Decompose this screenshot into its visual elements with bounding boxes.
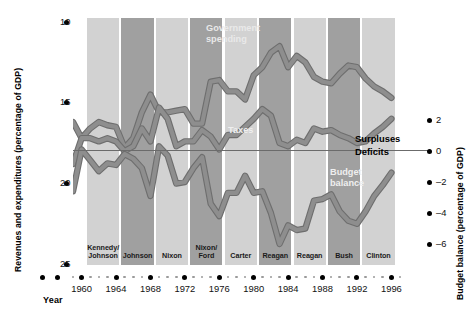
x-axis-minor-tick-dot <box>175 276 178 279</box>
x-axis-minor-tick-dot <box>209 276 212 279</box>
y-axis-right-tick-dot <box>427 180 432 185</box>
x-axis-major-tick-dot <box>320 275 325 280</box>
x-axis-minor-tick-dot <box>373 276 376 279</box>
x-axis-minor-tick-dot <box>278 276 281 279</box>
x-axis-minor-tick-dot <box>123 276 126 279</box>
x-axis-tick-label: 1972 <box>174 283 195 294</box>
x-axis-tick-label: 1988 <box>312 283 333 294</box>
x-axis-minor-tick-dot <box>201 276 204 279</box>
y-axis-right-tick-dot <box>427 242 432 247</box>
x-axis-minor-tick-dot <box>166 276 169 279</box>
y-axis-right-tick-label: 0 <box>436 145 441 156</box>
y-axis-right-tick-label: –6 <box>436 238 446 249</box>
x-axis-tick-label: 1996 <box>381 283 402 294</box>
x-axis-minor-tick-dot <box>132 276 135 279</box>
zero-reference-line <box>73 150 400 151</box>
x-axis-tick-label: 1960 <box>71 283 92 294</box>
x-axis-minor-tick-dot <box>399 276 402 279</box>
zero-leader-line <box>400 150 429 151</box>
x-axis-tick-dot <box>40 275 45 280</box>
x-axis-minor-tick-dot <box>98 276 101 279</box>
x-axis-major-tick-dot <box>354 275 359 280</box>
x-axis-minor-tick-dot <box>295 276 298 279</box>
x-axis-title: Year <box>43 295 63 305</box>
x-axis-tick-dot <box>55 275 60 280</box>
x-axis-tick-label: 1984 <box>278 283 299 294</box>
x-axis-minor-tick-dot <box>313 276 316 279</box>
x-axis-major-tick-dot <box>148 275 153 280</box>
annotation-gov-line2: spending <box>206 34 260 45</box>
x-axis-minor-tick-dot <box>244 276 247 279</box>
annotation-budget-balance: Budget balance <box>330 167 364 188</box>
x-axis-minor-tick-dot <box>304 276 307 279</box>
x-axis-major-tick-dot <box>286 275 291 280</box>
plot-area: Kennedy/JohnsonJohnsonNixonNixon/FordCar… <box>73 18 400 265</box>
x-axis-major-tick-dot <box>389 275 394 280</box>
x-axis-minor-tick-dot <box>270 276 273 279</box>
x-axis-major-tick-dot <box>251 275 256 280</box>
x-axis-minor-tick-dot <box>106 276 109 279</box>
x-axis-minor-tick-dot <box>347 276 350 279</box>
x-axis-minor-tick-dot <box>338 276 341 279</box>
y-axis-right-tick-dot <box>427 211 432 216</box>
y-axis-right-tick-label: –2 <box>436 176 446 187</box>
x-axis-minor-tick-dot <box>192 276 195 279</box>
x-axis-minor-tick-dot <box>158 276 161 279</box>
x-axis-minor-tick-dot <box>141 276 144 279</box>
x-axis-major-tick-dot <box>182 275 187 280</box>
annotation-taxes: Taxes <box>228 125 253 136</box>
x-axis-tick-label: 1964 <box>106 283 127 294</box>
x-axis-major-tick-dot <box>114 275 119 280</box>
y-axis-right-tick-dot <box>427 118 432 123</box>
x-axis-tick-label: 1976 <box>209 283 230 294</box>
y-axis-right-tick-dot <box>427 149 432 154</box>
y-axis-right-tick-label: –4 <box>436 207 446 218</box>
annotation-budget-line1: Budget <box>330 167 364 178</box>
annotation-budget-line2: balance <box>330 178 364 189</box>
chart-figure: Revenues and expenditures (percentage of… <box>0 0 470 316</box>
x-axis-minor-tick-dot <box>381 276 384 279</box>
annotation-gov-line1: Government <box>206 23 260 34</box>
x-axis-major-tick-dot <box>79 275 84 280</box>
x-axis-minor-tick-dot <box>330 276 333 279</box>
y-axis-right-title: Budget balance (percentage of GDP) <box>455 147 465 300</box>
x-axis-minor-tick-dot <box>364 276 367 279</box>
annotation-surpluses: Surpluses <box>355 134 400 145</box>
annotation-government-spending: Government spending <box>206 23 260 44</box>
x-axis-tick-label: 1968 <box>140 283 161 294</box>
x-axis-tick-label: 1992 <box>347 283 368 294</box>
x-axis-minor-tick-dot <box>72 276 75 279</box>
y-axis-left-title: Revenues and expenditures (percentage of… <box>13 68 23 272</box>
y-axis-right-tick-label: 2 <box>436 114 441 125</box>
series-layer <box>73 18 400 265</box>
x-axis-minor-tick-dot <box>261 276 264 279</box>
x-axis-major-tick-dot <box>217 275 222 280</box>
annotation-deficits: Deficits <box>355 147 389 158</box>
x-axis-minor-tick-dot <box>227 276 230 279</box>
x-axis-minor-tick-dot <box>89 276 92 279</box>
x-axis-minor-tick-dot <box>235 276 238 279</box>
x-axis-tick-label: 1980 <box>243 283 264 294</box>
